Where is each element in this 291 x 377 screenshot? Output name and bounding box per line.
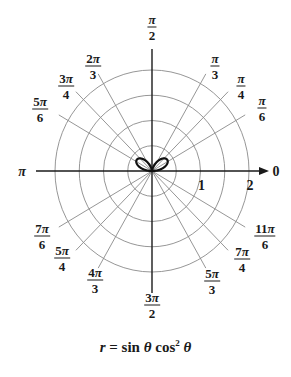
grid-spoke xyxy=(152,171,228,250)
angle-label-denominator: 3 xyxy=(209,282,216,296)
angle-label-denominator: 4 xyxy=(59,259,66,273)
angle-label-numerator: π xyxy=(236,72,245,87)
angle-label-denominator: 6 xyxy=(37,110,44,124)
angle-label-315: 7π4 xyxy=(234,245,250,274)
angle-label-numerator: π xyxy=(210,52,219,67)
angle-label-numerator: 7π xyxy=(234,245,250,260)
grid-spoke xyxy=(59,115,152,171)
angle-label-numerator: π xyxy=(257,94,266,109)
grid-spoke xyxy=(152,115,245,171)
angle-label-330: 11π6 xyxy=(254,222,275,251)
angle-label-numerator: 4π xyxy=(87,266,103,281)
angle-label-text: 0 xyxy=(273,164,280,179)
angle-label-240: 4π3 xyxy=(87,266,103,295)
caption-r: r xyxy=(100,339,106,355)
angle-label-denominator: 3 xyxy=(92,281,99,295)
angle-label-135: 3π4 xyxy=(58,72,74,101)
angle-label-270: 3π2 xyxy=(144,291,160,320)
angle-label-denominator: 6 xyxy=(39,237,46,251)
angle-label-denominator: 6 xyxy=(262,237,269,251)
angle-label-numerator: 3π xyxy=(58,72,74,87)
angle-label-180: π xyxy=(18,164,26,180)
angle-label-numerator: 11π xyxy=(254,222,275,237)
caption-theta-2: θ xyxy=(184,339,192,355)
angle-label-text: π xyxy=(18,164,26,179)
angle-label-denominator: 3 xyxy=(90,67,97,81)
angle-label-60: π3 xyxy=(210,52,219,81)
angle-label-denominator: 2 xyxy=(149,28,156,42)
caption-equals: = xyxy=(109,339,118,355)
angle-label-denominator: 6 xyxy=(259,109,266,123)
angle-label-150: 5π6 xyxy=(32,95,48,124)
angle-label-denominator: 4 xyxy=(63,87,70,101)
caption-cos: cos xyxy=(155,339,175,355)
angle-label-denominator: 3 xyxy=(212,67,219,81)
grid-spoke xyxy=(98,171,152,268)
grid-spoke xyxy=(59,171,152,227)
angle-label-numerator: 5π xyxy=(54,244,70,259)
grid-spoke xyxy=(76,171,152,250)
angle-label-45: π4 xyxy=(236,72,245,101)
arrow-right-icon xyxy=(259,167,269,175)
angle-label-300: 5π3 xyxy=(204,267,220,296)
angle-label-denominator: 4 xyxy=(239,260,246,274)
chart-caption: r = sin θ cos2 θ xyxy=(0,338,291,356)
angle-label-210: 7π6 xyxy=(34,222,50,251)
grid-spoke xyxy=(152,74,206,171)
grid-spoke xyxy=(98,74,152,171)
angle-label-denominator: 2 xyxy=(149,306,156,320)
angle-label-numerator: 2π xyxy=(85,52,101,67)
angle-label-denominator: 4 xyxy=(238,87,245,101)
angle-label-numerator: 7π xyxy=(34,222,50,237)
caption-sin: sin xyxy=(122,339,140,355)
angle-label-90: π2 xyxy=(147,13,156,42)
angle-label-numerator: 3π xyxy=(144,291,160,306)
angle-label-numerator: 5π xyxy=(32,95,48,110)
radial-tick-label-2: 2 xyxy=(247,178,254,194)
caption-exponent: 2 xyxy=(175,338,180,348)
radial-tick-label-1: 1 xyxy=(198,178,205,194)
angle-label-30: π6 xyxy=(257,94,266,123)
caption-theta-1: θ xyxy=(144,339,152,355)
angle-label-120: 2π3 xyxy=(85,52,101,81)
angle-label-0: 0 xyxy=(273,164,280,180)
angle-label-numerator: 5π xyxy=(204,267,220,282)
angle-label-numerator: π xyxy=(147,13,156,28)
angle-label-225: 5π4 xyxy=(54,244,70,273)
